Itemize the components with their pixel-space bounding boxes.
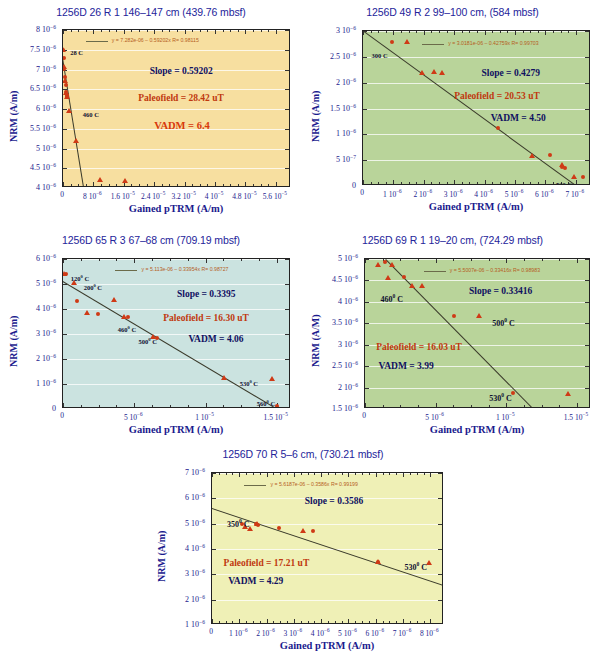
x-tick-label: 5 10−6 <box>505 188 524 199</box>
y-tickmark <box>285 334 289 335</box>
x-tickmark <box>577 403 578 407</box>
vadm-annotation: VADM = 4.06 <box>188 334 243 344</box>
x-minor-tickmark <box>261 30 262 32</box>
x-tickmark <box>576 31 577 35</box>
x-minor-tickmark <box>188 259 189 261</box>
data-point-triangle <box>254 521 260 526</box>
x-minor-tickmark <box>223 184 224 186</box>
y-tickmark <box>438 574 442 575</box>
x-tickmark <box>393 180 394 184</box>
x-minor-tickmark <box>453 259 454 261</box>
x-minor-tickmark <box>396 621 397 623</box>
x-minor-tickmark <box>416 31 417 33</box>
x-minor-tickmark <box>371 31 372 33</box>
y-tickmark <box>212 600 216 601</box>
x-minor-tickmark <box>447 182 448 184</box>
y-tickmark <box>585 31 589 32</box>
y-tickmark <box>63 149 67 150</box>
y-tickmark <box>212 498 216 499</box>
x-minor-tickmark <box>280 621 281 623</box>
chart-panel-5: 1256D 70 R 5–6 cm, (730.21 mbsf)y = 5.61… <box>148 446 458 658</box>
x-minor-tickmark <box>568 31 569 33</box>
y-tick-label: 6 10−6 <box>148 492 205 503</box>
regression-equation: y = 5.113e-06 – 0.33954x R= 0.98727 <box>141 266 228 272</box>
x-tick-label: 0 <box>360 188 364 197</box>
vadm-annotation: VADM = 6.4 <box>154 120 210 131</box>
x-minor-tickmark <box>116 184 117 186</box>
x-tick-label: 4 10−6 <box>474 188 493 199</box>
data-point-triangle <box>62 78 68 83</box>
y-tickmark <box>285 149 289 150</box>
x-tickmark <box>63 403 64 407</box>
data-point-circle <box>548 153 552 157</box>
x-minor-tickmark <box>524 405 525 407</box>
x-tickmark <box>154 182 155 186</box>
data-point-triangle <box>62 64 67 69</box>
x-minor-tickmark <box>553 182 554 184</box>
x-minor-tickmark <box>177 184 178 186</box>
x-minor-tickmark <box>152 259 153 261</box>
chart-title: 1256D 49 R 2 99–100 cm, (584 mbsf) <box>302 6 603 18</box>
paleofield-annotation: Paleofield = 16.30 uT <box>163 313 249 323</box>
data-point-triangle <box>404 39 410 44</box>
x-minor-tickmark <box>207 30 208 32</box>
x-minor-tickmark <box>261 184 262 186</box>
data-point-triangle <box>300 528 306 533</box>
data-point-triangle <box>66 108 72 113</box>
x-minor-tickmark <box>538 31 539 33</box>
x-tick-label: 1.6 10−5 <box>111 190 135 201</box>
x-minor-tickmark <box>259 259 260 261</box>
x-tick-label: 5 10−6 <box>425 411 444 422</box>
x-minor-tickmark <box>559 259 560 261</box>
x-minor-tickmark <box>524 259 525 261</box>
gridline-y <box>363 31 589 32</box>
x-tickmark <box>206 403 207 407</box>
data-point-triangle <box>269 376 275 381</box>
gridline-y <box>63 89 289 90</box>
y-tickmark <box>285 129 289 130</box>
x-minor-tickmark <box>139 30 140 32</box>
x-tickmark <box>239 473 240 477</box>
paleofield-annotation: Paleofield = 16.03 uT <box>376 342 462 352</box>
x-tick-label: 1.5 10−5 <box>564 411 588 422</box>
x-minor-tickmark <box>223 30 224 32</box>
y-tickmark <box>285 359 289 360</box>
x-minor-tickmark <box>314 473 315 475</box>
x-tickmark <box>93 30 94 34</box>
x-tick-label: 1.5 10−5 <box>264 411 288 422</box>
x-minor-tickmark <box>139 184 140 186</box>
x-minor-tickmark <box>101 30 102 32</box>
y-axis-title: NRM (A/m) <box>8 316 19 367</box>
chart-title: 1256D 69 R 1 19–20 cm, (724.29 mbsf) <box>302 234 603 246</box>
data-point-triangle <box>565 391 571 396</box>
chart-panel-2: 1256D 49 R 2 99–100 cm, (584 mbsf)y = 3.… <box>302 2 603 217</box>
x-minor-tickmark <box>200 184 201 186</box>
x-minor-tickmark <box>177 30 178 32</box>
x-minor-tickmark <box>410 473 411 475</box>
y-axis-title: NRM (A/M) <box>310 315 321 367</box>
y-tickmark <box>585 302 589 303</box>
x-tickmark <box>321 473 322 477</box>
x-minor-tickmark <box>232 473 233 475</box>
gridline-y <box>63 168 289 169</box>
x-minor-tickmark <box>169 184 170 186</box>
slope-annotation: Slope = 0.33416 <box>469 286 532 296</box>
data-point-circle <box>96 312 100 316</box>
x-tick-label: 0 <box>60 411 64 420</box>
data-point-circle <box>383 260 387 264</box>
y-tickmark <box>285 284 289 285</box>
x-axis-title: Gained pTRM (A/m) <box>62 203 290 214</box>
x-minor-tickmark <box>328 473 329 475</box>
y-tickmark <box>365 388 369 389</box>
y-tickmark <box>63 168 67 169</box>
gridline-y <box>63 30 289 31</box>
x-tick-label: 2 10−6 <box>256 627 275 638</box>
x-minor-tickmark <box>78 184 79 186</box>
legend-line-sample <box>115 270 137 271</box>
x-tickmark <box>93 182 94 186</box>
x-minor-tickmark <box>147 30 148 32</box>
x-minor-tickmark <box>71 184 72 186</box>
x-minor-tickmark <box>342 473 343 475</box>
x-tickmark <box>206 259 207 263</box>
slope-annotation: Slope = 0.59202 <box>150 66 213 76</box>
